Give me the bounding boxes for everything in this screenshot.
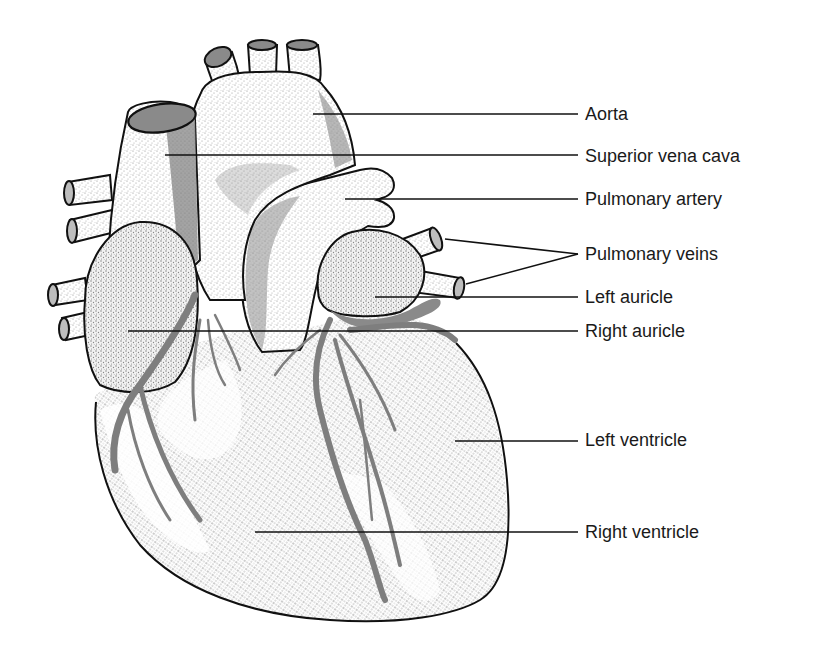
label-right-auricle: Right auricle	[585, 321, 685, 341]
leader-line-pulmonary-veins-upper	[445, 239, 578, 254]
label-left-auricle: Left auricle	[585, 287, 673, 307]
label-left-ventricle: Left ventricle	[585, 430, 687, 450]
label-right-ventricle: Right ventricle	[585, 522, 699, 542]
label-pulmonary-veins: Pulmonary veins	[585, 244, 718, 264]
leader-line-pulmonary-veins-lower	[466, 254, 578, 284]
label-aorta: Aorta	[585, 104, 628, 124]
label-superior-vena-cava: Superior vena cava	[585, 146, 740, 166]
heart-diagram	[0, 0, 822, 657]
label-pulmonary-artery: Pulmonary artery	[585, 189, 722, 209]
right-auricle-shape	[48, 222, 198, 392]
left-auricle-shape	[318, 226, 466, 329]
